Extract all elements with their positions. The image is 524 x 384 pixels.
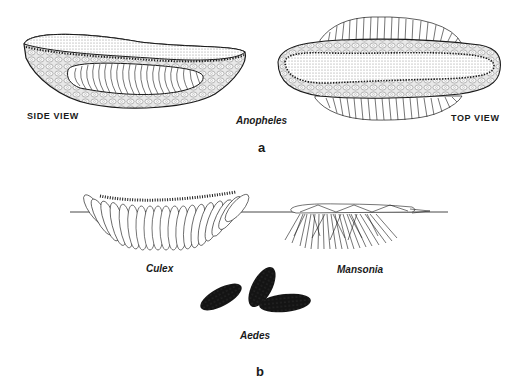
culex-label: Culex <box>146 263 173 274</box>
mansonia-egg-cluster <box>285 204 430 249</box>
aedes-label: Aedes <box>240 330 270 341</box>
panel-a-letter: a <box>258 140 265 155</box>
anopheles-side-view-egg <box>24 34 245 108</box>
anopheles-label: Anopheles <box>236 115 287 126</box>
side-view-label: SIDE VIEW <box>27 111 79 121</box>
mansonia-label: Mansonia <box>337 264 383 275</box>
culex-egg-raft <box>80 191 253 250</box>
aedes-eggs <box>196 263 311 316</box>
diagram-canvas <box>0 0 524 384</box>
anopheles-top-view-egg <box>278 17 500 120</box>
panel-b-letter: b <box>256 364 264 379</box>
top-view-label: TOP VIEW <box>451 113 499 123</box>
